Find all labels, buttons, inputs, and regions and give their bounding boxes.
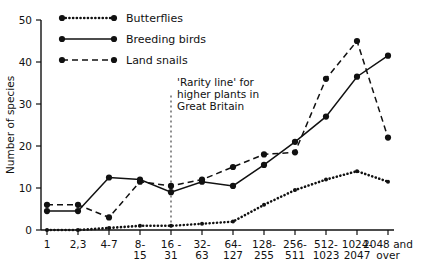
rarity-line-annotation: higher plants in — [177, 88, 259, 100]
species-rarity-line-chart: 01020304050Number of species12,34-78-151… — [0, 0, 426, 271]
legend-swatch-marker — [111, 57, 117, 63]
data-point — [200, 222, 204, 226]
data-point — [230, 183, 236, 189]
x-tick-label: 255 — [254, 249, 274, 261]
legend-label: Butterflies — [126, 12, 183, 25]
data-point — [292, 139, 298, 145]
data-point — [168, 189, 174, 195]
data-point — [138, 224, 142, 228]
data-point — [323, 114, 329, 120]
x-tick-label: 1023 — [313, 249, 340, 261]
rarity-line-annotation: Great Britain — [177, 100, 244, 112]
data-point — [45, 228, 49, 232]
data-point — [261, 162, 267, 168]
data-point — [75, 208, 81, 214]
series-line — [47, 41, 388, 217]
y-tick-label: 30 — [19, 98, 32, 110]
x-tick-label: 63 — [195, 249, 208, 261]
rarity-line-annotation: 'Rarity line' for — [177, 76, 255, 88]
legend-swatch-marker — [111, 36, 117, 42]
x-tick-label: 4-7 — [100, 238, 117, 250]
y-tick-label: 0 — [25, 224, 32, 236]
chart-container: 01020304050Number of species12,34-78-151… — [0, 0, 426, 271]
data-point — [324, 178, 328, 182]
y-tick-label: 40 — [19, 56, 32, 68]
data-point — [355, 169, 359, 173]
legend-swatch-marker — [59, 36, 65, 42]
data-point — [386, 180, 390, 184]
data-point — [385, 135, 391, 141]
legend-swatch-marker — [111, 15, 117, 21]
x-tick-label: over — [376, 249, 400, 261]
series-butterflies — [45, 169, 390, 232]
data-point — [293, 188, 297, 192]
series-line — [47, 171, 388, 230]
data-point — [199, 177, 205, 183]
data-point — [106, 214, 112, 220]
legend-label: Land snails — [126, 54, 188, 67]
x-tick-label: 2,3 — [70, 238, 87, 250]
data-point — [354, 74, 360, 80]
x-tick-label: 15 — [133, 249, 146, 261]
data-point — [385, 53, 391, 59]
legend-swatch-marker — [59, 15, 65, 21]
data-point — [323, 76, 329, 82]
x-tick-label: 1 — [44, 238, 51, 250]
data-point — [231, 220, 235, 224]
legend-label: Breeding birds — [126, 33, 206, 46]
y-tick-label: 50 — [19, 14, 32, 26]
data-point — [107, 226, 111, 230]
x-tick-label: 511 — [285, 249, 305, 261]
data-point — [106, 174, 112, 180]
data-point — [168, 183, 174, 189]
data-point — [262, 203, 266, 207]
data-point — [230, 164, 236, 170]
data-point — [75, 202, 81, 208]
legend-swatch-marker — [59, 57, 65, 63]
data-point — [137, 179, 143, 185]
data-point — [76, 228, 80, 232]
x-tick-label: 31 — [164, 249, 177, 261]
data-point — [44, 208, 50, 214]
data-point — [261, 151, 267, 157]
data-point — [44, 202, 50, 208]
x-tick-label: 127 — [223, 249, 243, 261]
y-tick-label: 20 — [19, 140, 32, 152]
series-land-snails — [44, 38, 391, 221]
data-point — [292, 149, 298, 155]
data-point — [354, 38, 360, 44]
data-point — [169, 224, 173, 228]
y-axis-title: Number of species — [4, 76, 16, 174]
y-tick-label: 10 — [19, 182, 32, 194]
x-tick-label: 2047 — [344, 249, 371, 261]
